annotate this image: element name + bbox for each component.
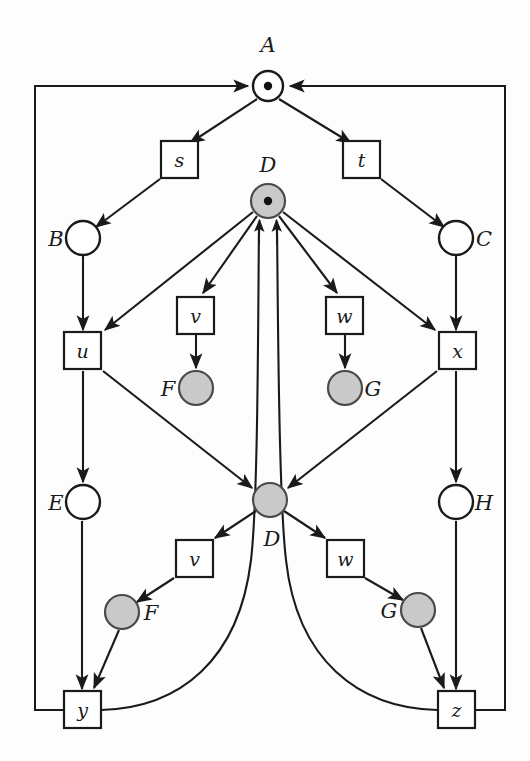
place-label-A: A — [258, 33, 275, 57]
transition-s[interactable]: s — [161, 141, 198, 178]
place-G2[interactable]: G — [381, 593, 435, 627]
frame-left-path — [35, 86, 246, 710]
arc-A-to-t — [279, 99, 351, 143]
token-dot-D1 — [264, 197, 272, 205]
place-label-D2: D — [263, 527, 281, 551]
place-label-F2: F — [143, 601, 160, 625]
arc-D1-to-w1 — [279, 216, 337, 293]
arc-F2-to-y — [94, 630, 119, 688]
arc-v2-to-F2 — [137, 578, 174, 602]
place-B[interactable]: B — [47, 221, 100, 255]
place-C[interactable]: C — [439, 221, 492, 255]
arc-G2-to-z — [421, 628, 444, 688]
transition-t[interactable]: t — [343, 141, 380, 178]
place-F1[interactable]: F — [160, 371, 213, 405]
transition-label-v2: v — [189, 548, 200, 570]
petri-net-canvas: stuxvwvwyz ADBCFGEDHFG — [0, 0, 530, 761]
transition-v1[interactable]: v — [177, 297, 214, 334]
arc-A-to-s — [190, 99, 257, 143]
place-label-G1: G — [365, 377, 382, 401]
place-circle-C — [439, 221, 473, 255]
place-label-G2: G — [381, 599, 398, 623]
arcs-vertical-upper — [83, 256, 456, 330]
place-circle-F1 — [179, 371, 213, 405]
transition-w1[interactable]: w — [326, 297, 363, 334]
arc-D2-to-v2 — [215, 511, 256, 538]
place-label-B: B — [47, 227, 63, 251]
transitions-layer: stuxvwvwyz — [64, 141, 476, 728]
place-H[interactable]: H — [439, 485, 494, 519]
arc-w2-to-G2 — [365, 578, 403, 600]
transition-y[interactable]: y — [64, 691, 101, 728]
arc-D1-to-v1 — [203, 216, 257, 293]
place-circle-G2 — [401, 593, 435, 627]
place-circle-B — [66, 221, 100, 255]
transition-u[interactable]: u — [64, 332, 101, 369]
place-label-F1: F — [160, 377, 177, 401]
arc-D2-to-w2 — [284, 511, 325, 538]
arcs-lower-fan — [83, 371, 456, 488]
arcs-from-D1 — [105, 212, 435, 330]
arc-z-to-D1 — [277, 222, 437, 710]
petri-net-figure: stuxvwvwyz ADBCFGEDHFG — [0, 0, 530, 761]
arcs-mid-transitions — [196, 335, 345, 368]
arcs-lower-transitions — [137, 578, 403, 602]
transition-label-z: z — [450, 699, 462, 721]
transition-v2[interactable]: v — [176, 540, 213, 577]
transition-label-t: t — [358, 149, 366, 171]
place-F2[interactable]: F — [105, 595, 160, 629]
place-A[interactable]: A — [253, 33, 283, 101]
place-circle-E — [66, 485, 100, 519]
place-circle-D2 — [253, 483, 287, 517]
place-circle-F2 — [105, 595, 139, 629]
transition-z[interactable]: z — [438, 691, 475, 728]
arc-y-to-D1 — [101, 222, 259, 710]
places-layer: ADBCFGEDHFG — [47, 33, 494, 629]
transition-label-w2: w — [337, 548, 353, 570]
transition-label-u: u — [76, 340, 88, 362]
place-circle-G1 — [328, 371, 362, 405]
place-label-E: E — [47, 491, 63, 515]
arc-z-to-D1-head — [277, 220, 278, 245]
arc-u-to-D2 — [103, 371, 252, 488]
place-D1[interactable]: D — [251, 153, 285, 218]
arc-y-to-D1-head — [259, 220, 260, 245]
place-G1[interactable]: G — [328, 371, 381, 405]
place-circle-H — [439, 485, 473, 519]
arc-s-to-B — [96, 179, 160, 227]
place-E[interactable]: E — [47, 485, 100, 519]
token-dot-A — [264, 82, 272, 90]
place-label-C: C — [476, 227, 492, 251]
arc-t-to-C — [381, 179, 444, 227]
frame-right-path — [292, 86, 505, 710]
transition-label-v1: v — [190, 305, 201, 327]
transition-label-y: y — [76, 699, 88, 721]
place-label-H: H — [474, 491, 494, 515]
transition-label-x: x — [452, 340, 463, 362]
transition-label-s: s — [175, 149, 185, 171]
transition-label-w1: w — [336, 305, 352, 327]
transition-x[interactable]: x — [439, 332, 476, 369]
transition-w2[interactable]: w — [327, 540, 364, 577]
place-label-D1: D — [259, 153, 277, 177]
